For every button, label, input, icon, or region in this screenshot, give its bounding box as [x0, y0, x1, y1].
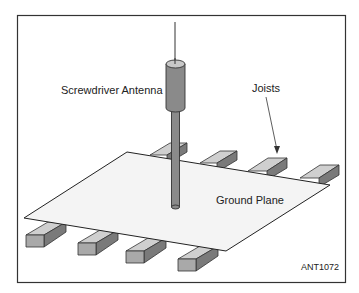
antenna-label: Screwdriver Antenna	[61, 84, 163, 96]
antenna-coil-housing	[166, 64, 185, 112]
figure-code: ANT1072	[301, 262, 339, 272]
diagram-canvas	[0, 0, 359, 293]
ground-plane-label: Ground Plane	[216, 194, 284, 206]
joists-label: Joists	[252, 82, 280, 94]
antenna-mast	[172, 108, 180, 207]
